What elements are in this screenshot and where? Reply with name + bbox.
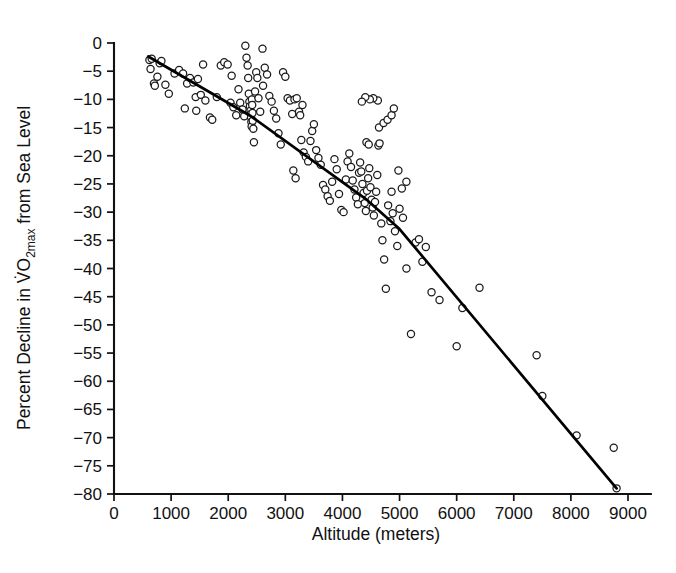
y-tick-label: −10 [73, 90, 102, 109]
data-point [379, 237, 386, 244]
data-point [270, 107, 277, 114]
y-tick-label: −65 [73, 400, 102, 419]
data-point [259, 45, 266, 52]
y-axis-title-subscript: 2max [24, 229, 38, 258]
data-point [346, 150, 353, 157]
data-point [374, 171, 381, 178]
data-point [362, 207, 369, 214]
x-tick-label: 1000 [152, 504, 190, 523]
data-point [154, 73, 161, 80]
data-point [388, 112, 395, 119]
y-tick-label: −80 [73, 485, 102, 504]
data-point [385, 202, 392, 209]
data-point [347, 163, 354, 170]
y-tick-label: −30 [73, 203, 102, 222]
x-tick-label: 5000 [381, 504, 419, 523]
x-tick-label: 2000 [209, 504, 247, 523]
y-tick-label: −60 [73, 372, 102, 391]
data-point [162, 81, 169, 88]
data-point [395, 167, 402, 174]
data-point [403, 265, 410, 272]
y-tick-label: −20 [73, 147, 102, 166]
data-point [257, 108, 264, 115]
data-point [315, 154, 322, 161]
y-axis-title-prefix: Percent Decline in [14, 283, 34, 430]
data-point [381, 256, 388, 263]
data-point [244, 62, 251, 69]
data-point [297, 112, 304, 119]
data-point [358, 98, 365, 105]
data-point [299, 101, 306, 108]
data-point [333, 166, 340, 173]
data-point [277, 141, 284, 148]
data-point [242, 42, 249, 49]
y-tick-label: −25 [73, 175, 102, 194]
x-tick-label: 4000 [324, 504, 362, 523]
y-axis-title-suffix: from Sea Level [14, 106, 34, 229]
data-point [403, 178, 410, 185]
data-point [165, 90, 172, 97]
data-point [533, 352, 540, 359]
y-tick-label: −45 [73, 288, 102, 307]
data-point [268, 98, 275, 105]
data-point [273, 115, 280, 122]
data-point [237, 99, 244, 106]
data-point [282, 73, 289, 80]
data-point [209, 116, 216, 123]
data-point [428, 289, 435, 296]
y-tick-label: −55 [73, 344, 102, 363]
data-point [399, 214, 406, 221]
data-point [476, 284, 483, 291]
y-tick-label: −35 [73, 231, 102, 250]
data-point [357, 159, 364, 166]
data-point [194, 75, 201, 82]
data-point [313, 147, 320, 154]
data-point [382, 285, 389, 292]
scatter-chart: 0−5−10−15−20−25−30−35−40−45−50−55−60−65−… [0, 0, 676, 573]
x-tick-label: 3000 [266, 504, 304, 523]
data-point [422, 243, 429, 250]
data-point [373, 188, 380, 195]
data-point [245, 74, 252, 81]
data-point [453, 343, 460, 350]
y-tick-label: −40 [73, 260, 102, 279]
data-point [307, 137, 314, 144]
data-point [365, 175, 372, 182]
y-axis-title-symbol: V̇O [14, 258, 34, 283]
data-point [378, 220, 385, 227]
data-point [289, 110, 296, 117]
data-point [254, 74, 261, 81]
data-point [290, 167, 297, 174]
data-point [610, 444, 617, 451]
data-point [263, 71, 270, 78]
y-tick-label: −15 [73, 119, 102, 138]
data-point [398, 185, 405, 192]
data-point [310, 121, 317, 128]
data-point [243, 54, 250, 61]
data-point [388, 188, 395, 195]
data-point [415, 236, 422, 243]
data-point [228, 72, 235, 79]
figure-root: 0−5−10−15−20−25−30−35−40−45−50−55−60−65−… [0, 0, 676, 573]
data-point [224, 61, 231, 68]
data-point [255, 95, 262, 102]
data-point [250, 125, 257, 132]
data-point [436, 296, 443, 303]
data-point [394, 242, 401, 249]
data-point [261, 64, 268, 71]
x-tick-label: 9000 [609, 504, 647, 523]
data-point [251, 88, 258, 95]
data-point [335, 190, 342, 197]
data-point [326, 197, 333, 204]
data-point [349, 177, 356, 184]
y-tick-label: −5 [83, 62, 102, 81]
x-tick-label: 0 [109, 504, 118, 523]
data-point [322, 186, 329, 193]
x-tick-label: 8000 [552, 504, 590, 523]
data-point [293, 95, 300, 102]
data-point [340, 209, 347, 216]
data-point [249, 101, 256, 108]
y-tick-label: −70 [73, 429, 102, 448]
data-point [181, 105, 188, 112]
data-point [250, 139, 257, 146]
